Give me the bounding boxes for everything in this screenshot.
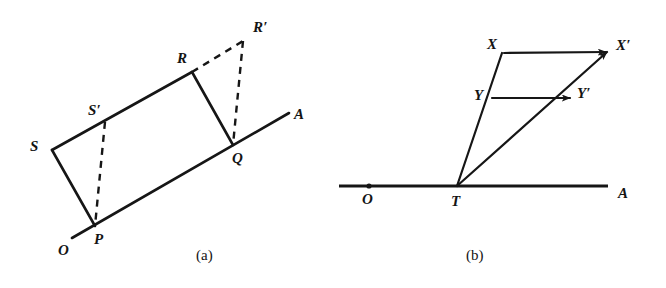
point-label-X-prime: X′: [616, 38, 631, 53]
point-label-A-b: A: [618, 186, 628, 201]
side-S-R: [52, 72, 192, 150]
arrow-X-to-X-prime: [504, 52, 606, 53]
point-label-S: S: [30, 139, 39, 154]
point-label-A-a: A: [294, 107, 304, 122]
point-label-Y: Y: [474, 88, 483, 103]
figure-root: O P S S′ R Q R′ A (a) O T A X X′ Y Y′ (b…: [0, 0, 666, 288]
point-label-T: T: [451, 194, 460, 209]
panel-a-geometry: [52, 41, 289, 238]
side-R-Q: [192, 72, 233, 145]
panel-caption-a: (a): [196, 248, 213, 263]
side-P-S: [52, 150, 95, 226]
panel-caption-b: (b): [466, 248, 484, 263]
point-label-Y-prime: Y′: [577, 86, 591, 101]
dashed-R-R-prime: [192, 41, 243, 72]
point-label-Q: Q: [232, 151, 243, 166]
point-label-X: X: [487, 37, 497, 52]
point-label-R-prime: R′: [253, 20, 268, 35]
dashed-R-prime-Q: [233, 41, 243, 145]
point-label-O-b: O: [362, 192, 373, 207]
point-label-O-a: O: [58, 243, 69, 258]
point-dot-O: [366, 183, 371, 188]
point-label-R: R: [177, 51, 187, 66]
panel-b-geometry: [339, 52, 608, 189]
dashed-S-prime-P: [95, 122, 105, 226]
ray-O-A: [72, 113, 289, 238]
point-label-S-prime: S′: [88, 103, 101, 118]
point-label-P: P: [94, 232, 103, 247]
